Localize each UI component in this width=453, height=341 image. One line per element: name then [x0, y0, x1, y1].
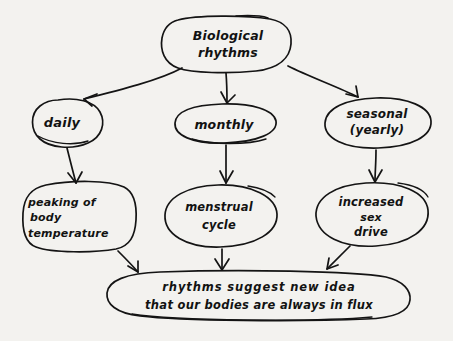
- node-shape-menstrual-overstroke: [248, 186, 275, 197]
- node-shape-conclusion-overstroke: [132, 314, 372, 320]
- node-shape-conclusion: [107, 271, 410, 321]
- edge-seasonal-sexdrive: [375, 150, 376, 182]
- node-shape-monthly: [175, 104, 276, 143]
- node-shape-sexdrive: [316, 183, 428, 246]
- diagram-canvas: Biological rhythms daily monthly seasona…: [0, 0, 453, 341]
- edge-root-monthly: [226, 73, 227, 103]
- diagram-drawing: [0, 0, 453, 341]
- arrowhead-root-monthly: [221, 92, 235, 103]
- node-shape-peaking: [23, 181, 136, 251]
- edge-root-daily: [84, 68, 182, 99]
- edge-peaking-conclusion: [118, 251, 138, 272]
- edge-root-seasonal: [288, 66, 358, 97]
- node-shape-menstrual: [165, 185, 277, 247]
- node-shape-root: [162, 16, 292, 73]
- node-shape-seasonal: [325, 98, 431, 148]
